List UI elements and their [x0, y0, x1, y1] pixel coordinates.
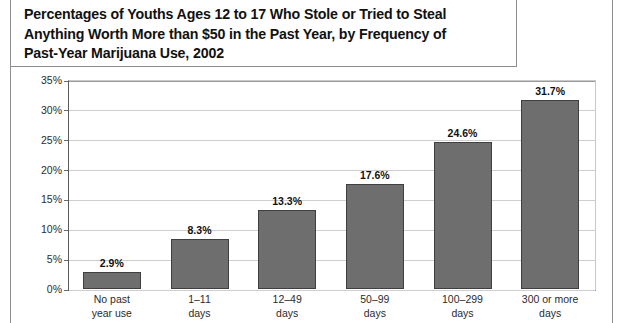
- bar-value-label: 13.3%: [247, 196, 327, 207]
- x-axis-category-label: 300 or more days: [506, 293, 594, 320]
- y-axis-tick-label: 30%: [41, 105, 62, 115]
- bar-value-label: 24.6%: [423, 128, 503, 139]
- chart-title: Percentages of Youths Ages 12 to 17 Who …: [24, 5, 506, 64]
- y-axis-tick-label: 0%: [47, 284, 62, 294]
- x-axis-category-labels: No past year use1–11 days12–49 days50–99…: [68, 293, 594, 323]
- bar[interactable]: [521, 100, 579, 289]
- bar[interactable]: [171, 239, 229, 289]
- chart-title-box: Percentages of Youths Ages 12 to 17 Who …: [10, 0, 517, 67]
- bar-value-label: 17.6%: [335, 170, 415, 181]
- bar-value-label: 2.9%: [72, 258, 152, 269]
- bar-value-label: 31.7%: [510, 86, 590, 97]
- y-axis-tick-labels: 0%5%10%15%20%25%30%35%: [18, 80, 62, 289]
- bar[interactable]: [83, 272, 141, 289]
- bar[interactable]: [434, 142, 492, 289]
- y-axis-tick-label: 15%: [41, 194, 62, 204]
- y-axis-tick-label: 25%: [41, 135, 62, 145]
- x-axis-category-label: 50–99 days: [331, 293, 419, 320]
- chart-container: 0%5%10%15%20%25%30%35% 2.9%8.3%13.3%17.6…: [10, 67, 612, 323]
- gridline: [69, 290, 595, 291]
- x-axis-category-label: 1–11 days: [156, 293, 244, 320]
- y-axis-tick-label: 35%: [41, 75, 62, 85]
- page-rule-right: [612, 0, 613, 323]
- y-axis-tick: [64, 290, 68, 291]
- y-axis-tick-label: 10%: [41, 224, 62, 234]
- x-axis-category-label: No past year use: [68, 293, 156, 320]
- x-axis-category-label: 12–49 days: [243, 293, 331, 320]
- x-axis-category-label: 100–299 days: [419, 293, 507, 320]
- y-axis-tick-label: 20%: [41, 165, 62, 175]
- bar[interactable]: [258, 210, 316, 289]
- bar-series: 2.9%8.3%13.3%17.6%24.6%31.7%: [68, 80, 594, 289]
- bar[interactable]: [346, 184, 404, 289]
- y-axis-tick-label: 5%: [47, 254, 62, 264]
- bar-value-label: 8.3%: [160, 225, 240, 236]
